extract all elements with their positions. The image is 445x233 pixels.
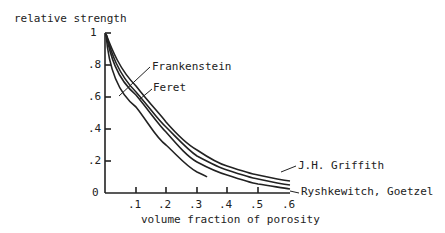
label-feret: Feret	[153, 81, 186, 94]
x-tick-01: .1	[128, 198, 141, 211]
axes	[105, 33, 290, 193]
x-axis-label: volume fraction of porosity	[141, 213, 320, 226]
x-tick-05: .5	[250, 198, 263, 211]
x-tick-03: .3	[189, 198, 202, 211]
x-tick-06: .6	[282, 198, 295, 211]
y-tick-04: .4	[88, 122, 101, 135]
y-tick-02: .2	[88, 154, 101, 167]
y-tick-0: 0	[92, 186, 99, 199]
label-ryshkewitch: Ryshkewitch, Goetzel	[301, 185, 433, 198]
curves	[106, 34, 290, 189]
y-tick-06: .6	[88, 90, 101, 103]
label-frankenstein: Frankenstein	[152, 60, 231, 73]
curve-griffith	[106, 34, 290, 189]
leader-lines	[119, 67, 299, 193]
label-griffith: J.H. Griffith	[298, 159, 384, 172]
y-tick-08: .8	[88, 58, 101, 71]
curve-frankenstein	[106, 34, 290, 181]
x-tick-04: .4	[219, 198, 232, 211]
y-tick-1: 1	[90, 26, 97, 39]
y-axis-label: relative strength	[14, 12, 127, 25]
curve-ryshkewitch	[106, 34, 207, 177]
x-tick-02: .2	[158, 198, 171, 211]
